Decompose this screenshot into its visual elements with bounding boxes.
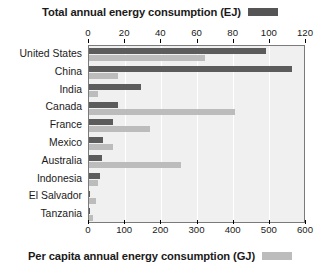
category-axis: United StatesChinaIndiaCanadaFranceMexic…: [0, 45, 85, 223]
bar-total: [89, 66, 292, 72]
legend-percapita: Per capita annual energy consumption (GJ…: [0, 250, 320, 262]
bottom-axis: 0100200300400500600: [88, 224, 305, 237]
top-axis-tick-mark: [197, 39, 198, 43]
top-axis-tick-mark: [124, 39, 125, 43]
bar-per-capita: [89, 180, 98, 186]
bottom-axis-tick-mark: [233, 220, 234, 224]
bar-rows: [89, 46, 304, 222]
legend-percapita-label: Per capita annual energy consumption (GJ…: [28, 250, 255, 262]
legend-total: Total annual energy consumption (EJ): [0, 6, 320, 18]
bar-total: [89, 191, 90, 197]
bottom-axis-tick-label: 200: [152, 224, 168, 235]
bottom-axis-tick-label: 0: [85, 224, 90, 235]
top-axis-tick-label: 60: [191, 27, 202, 38]
top-axis-tick-label: 20: [119, 27, 130, 38]
bar-per-capita: [89, 55, 205, 61]
bar-row: [89, 46, 304, 64]
top-axis-tick-label: 40: [155, 27, 166, 38]
top-axis-tick-label: 80: [227, 27, 238, 38]
top-axis-tick-label: 100: [261, 27, 277, 38]
bar-per-capita: [89, 109, 235, 115]
bar-per-capita: [89, 126, 150, 132]
bottom-axis-tick-mark: [124, 220, 125, 224]
bar-total: [89, 155, 102, 161]
category-label: Australia: [0, 155, 82, 166]
bar-total: [89, 208, 90, 214]
category-label: Canada: [0, 101, 82, 112]
bottom-axis-tick-mark: [305, 220, 306, 224]
category-label: Tanzania: [0, 208, 82, 219]
category-label: China: [0, 66, 82, 77]
bottom-axis-tick-mark: [160, 220, 161, 224]
percapita-legend-swatch: [262, 252, 292, 260]
bottom-axis-tick-mark: [197, 220, 198, 224]
bar-total: [89, 84, 141, 90]
bar-total: [89, 137, 103, 143]
bar-per-capita: [89, 215, 93, 221]
top-axis-tick-label: 0: [85, 27, 90, 38]
bar-per-capita: [89, 162, 181, 168]
bar-total: [89, 173, 100, 179]
bar-row: [89, 82, 304, 100]
bar-row: [89, 99, 304, 117]
bar-row: [89, 171, 304, 189]
top-axis-tick-mark: [305, 39, 306, 43]
top-axis-tick-mark: [160, 39, 161, 43]
bar-per-capita: [89, 91, 98, 97]
top-axis-tick-mark: [88, 39, 89, 43]
legend-total-label: Total annual energy consumption (EJ): [42, 6, 241, 18]
bar-per-capita: [89, 144, 113, 150]
category-label: France: [0, 119, 82, 130]
bar-per-capita: [89, 73, 118, 79]
bottom-axis-tick-mark: [88, 220, 89, 224]
category-label: Mexico: [0, 137, 82, 148]
bar-total: [89, 48, 266, 54]
bar-row: [89, 64, 304, 82]
bar-total: [89, 119, 113, 125]
top-axis: 020406080100120: [88, 27, 305, 40]
bar-row: [89, 117, 304, 135]
bottom-axis-tick-label: 400: [225, 224, 241, 235]
bottom-axis-tick-label: 100: [116, 224, 132, 235]
total-legend-swatch: [248, 8, 278, 16]
category-label: India: [0, 84, 82, 95]
bottom-axis-tick-label: 600: [297, 224, 313, 235]
bottom-axis-tick-label: 300: [188, 224, 204, 235]
top-axis-tick-mark: [269, 39, 270, 43]
bar-total: [89, 102, 118, 108]
energy-consumption-chart: Total annual energy consumption (EJ) 020…: [0, 0, 320, 277]
top-axis-tick-label: 120: [297, 27, 313, 38]
bar-per-capita: [89, 198, 96, 204]
bottom-axis-tick-label: 500: [261, 224, 277, 235]
top-axis-tick-mark: [233, 39, 234, 43]
bottom-axis-tick-mark: [269, 220, 270, 224]
bar-row: [89, 135, 304, 153]
category-label: Indonesia: [0, 173, 82, 184]
bar-row: [89, 188, 304, 206]
bar-row: [89, 153, 304, 171]
plot-area: [88, 45, 305, 223]
category-label: El Salvador: [0, 190, 82, 201]
category-label: United States: [0, 48, 82, 59]
